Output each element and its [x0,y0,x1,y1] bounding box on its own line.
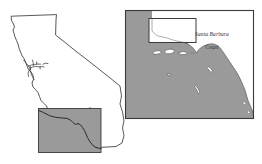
california-state-panel [0,0,132,164]
bight-detail-panel: Santa Barbara Coast [124,9,256,121]
bight-detail-svg [124,9,256,121]
island-santa-barbara [184,71,186,73]
island-anacapa [191,52,195,54]
california-outline-svg [0,0,132,164]
santa-barbara-coast-highlight-box[interactable] [149,19,196,43]
locator-map-figure: Santa Barbara Coast [0,0,262,164]
